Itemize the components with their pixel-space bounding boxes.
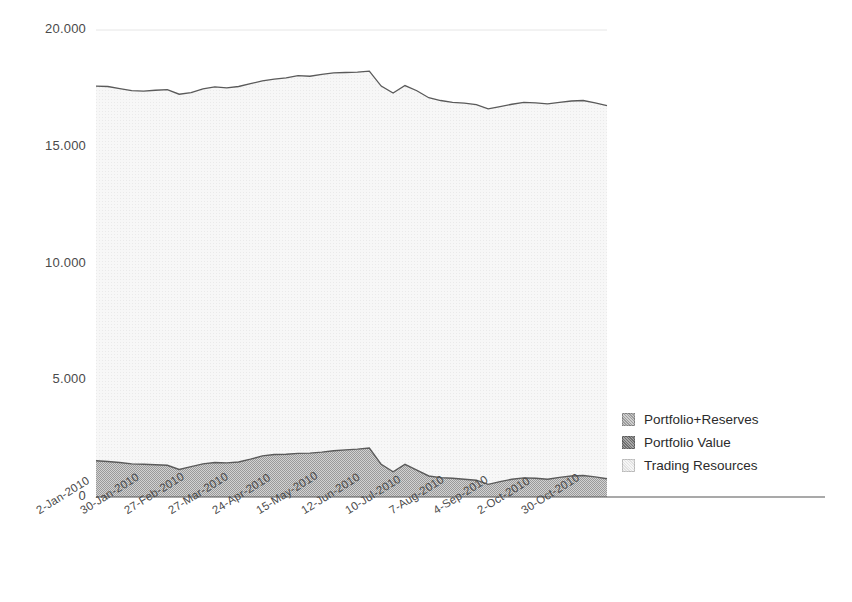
area-trading-resources <box>96 71 607 484</box>
legend-swatch <box>622 459 635 472</box>
y-axis-tick-label: 5.000 <box>0 371 86 386</box>
chart-legend: Portfolio+ReservesPortfolio ValueTrading… <box>622 408 832 477</box>
legend-label: Portfolio+Reserves <box>644 412 758 427</box>
legend-swatch <box>622 436 635 449</box>
series-areas <box>96 71 607 497</box>
legend-label: Trading Resources <box>644 458 758 473</box>
y-axis-tick-label: 10.000 <box>0 255 86 270</box>
legend-swatch <box>622 413 635 426</box>
legend-item[interactable]: Portfolio Value <box>622 431 832 454</box>
y-axis-tick-label: 20.000 <box>0 21 86 36</box>
legend-label: Portfolio Value <box>644 435 731 450</box>
area-chart: 05.00010.00015.00020.000 2-Jan-201030-Ja… <box>0 0 852 602</box>
y-axis-tick-label: 15.000 <box>0 138 86 153</box>
legend-item[interactable]: Trading Resources <box>622 454 832 477</box>
legend-item[interactable]: Portfolio+Reserves <box>622 408 832 431</box>
